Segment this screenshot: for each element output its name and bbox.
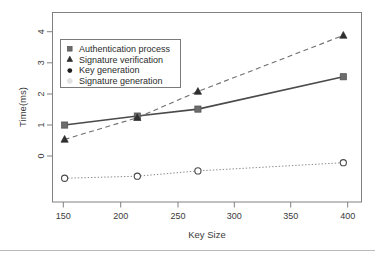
x-tick-label-3: 300 [227, 211, 242, 221]
x-tick-label-4: 350 [283, 211, 298, 221]
legend: Authentication process Signature verific… [61, 40, 181, 88]
data-point-s0-2 [195, 106, 201, 112]
data-point-s3-3 [340, 160, 346, 166]
x-tick-label-2: 250 [170, 211, 185, 221]
legend-marker-square-icon [68, 47, 73, 52]
y-axis-title: Time(ms) [17, 87, 28, 127]
x-tick-label-0: 150 [56, 211, 71, 221]
legend-label-3: Signature generation [79, 76, 163, 86]
legend-marker-filled-circle-icon [67, 68, 72, 73]
data-point-s3-0 [62, 175, 68, 181]
y-tick-label-1: 1 [36, 122, 46, 127]
data-point-s0-0 [62, 122, 68, 128]
y-tick-label-4: 4 [36, 29, 46, 34]
data-point-s3-1 [134, 173, 140, 179]
x-axis-title: Key Size [188, 229, 226, 240]
chart-figure: 0 1 2 3 4 Time(ms) 150 200 250 300 350 4… [0, 0, 375, 260]
x-tick-label-1: 200 [113, 211, 128, 221]
y-tick-label-2: 2 [36, 91, 46, 96]
y-tick-label-3: 3 [36, 60, 46, 65]
legend-label-2: Key generation [79, 65, 140, 75]
y-tick-label-0: 0 [36, 153, 46, 158]
legend-label-0: Authentication process [79, 44, 171, 54]
legend-label-1: Signature verification [79, 55, 163, 65]
legend-marker-open-circle-icon [67, 79, 72, 84]
x-tick-label-5: 400 [340, 211, 355, 221]
figure-background [0, 0, 375, 260]
data-point-s3-2 [195, 168, 201, 174]
data-point-s0-3 [340, 74, 346, 80]
